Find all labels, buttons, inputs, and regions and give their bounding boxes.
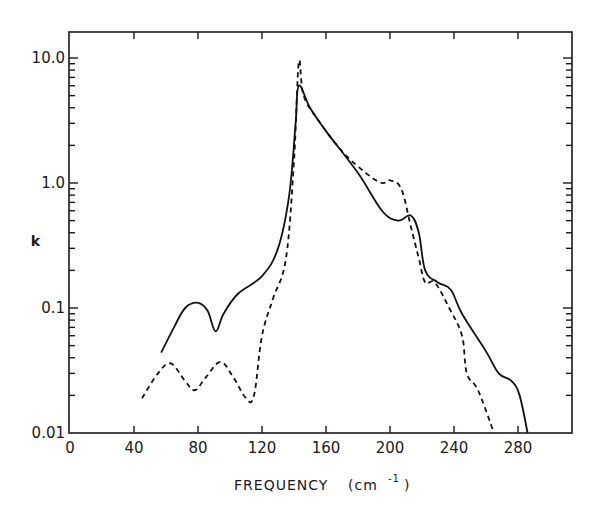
x-tick-label: 160	[312, 439, 341, 457]
x-tick-label: 240	[440, 439, 469, 457]
plot-frame	[69, 32, 572, 433]
data-series	[142, 60, 528, 433]
y-tick-label: 1.0	[41, 174, 65, 192]
x-axis-title: FREQUENCY (cm -1 )	[234, 473, 410, 493]
x-tick-label: 40	[124, 439, 143, 457]
series-solid-line	[161, 85, 527, 433]
x-tick-label: 200	[376, 439, 405, 457]
x-tick-label: 0	[65, 439, 75, 457]
x-axis-title-main: FREQUENCY	[234, 477, 328, 493]
y-tick-label: 0.1	[41, 299, 65, 317]
y-axis-ticks: 0.010.11.010.0	[32, 49, 572, 442]
x-axis-title-exponent: -1	[388, 473, 400, 484]
y-axis-title: k	[31, 233, 41, 249]
x-tick-label: 80	[188, 439, 207, 457]
y-tick-label: 10.0	[32, 49, 65, 67]
x-axis-title-unit: (cm	[348, 477, 378, 493]
x-tick-label: 120	[248, 439, 277, 457]
chart: 0.010.11.010.0 04080120160200240280 k FR…	[0, 0, 598, 505]
y-tick-label: 0.01	[32, 424, 65, 442]
x-axis-title-close: )	[404, 477, 410, 493]
series-dashed-line	[142, 60, 494, 433]
x-tick-label: 280	[504, 439, 533, 457]
x-axis-ticks: 04080120160200240280	[65, 32, 532, 457]
